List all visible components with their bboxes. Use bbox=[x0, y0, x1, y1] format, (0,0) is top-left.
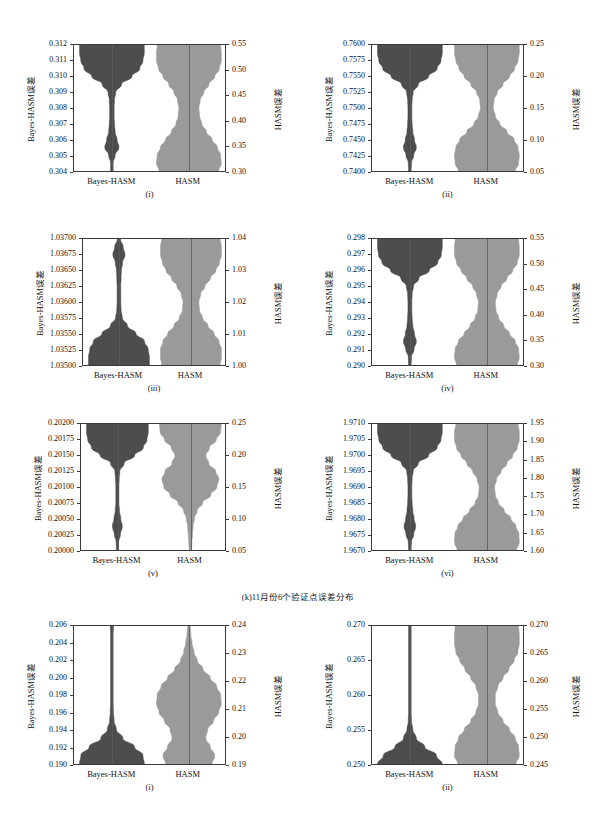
violin-whisker bbox=[83, 764, 141, 765]
tick-label: 0.20 bbox=[232, 451, 246, 459]
tick-mark bbox=[524, 340, 527, 341]
tick-label: 0.204 bbox=[49, 639, 67, 647]
tick-label: 1.9705 bbox=[343, 435, 365, 443]
violin-median-line bbox=[112, 626, 113, 764]
tick-mark bbox=[79, 366, 82, 367]
tick-mark bbox=[524, 681, 527, 682]
tick-label: 0.250 bbox=[530, 733, 548, 741]
tick-mark bbox=[226, 519, 229, 520]
tick-mark bbox=[524, 108, 527, 109]
panel-label: (v) bbox=[80, 568, 226, 578]
tick-mark bbox=[226, 551, 229, 552]
tick-mark bbox=[524, 76, 527, 77]
right-axis-title: HASM误差 bbox=[569, 80, 581, 138]
tick-label: 0.55 bbox=[530, 234, 544, 242]
violin-whisker bbox=[458, 550, 516, 551]
plot-frame bbox=[80, 423, 226, 551]
tick-label: 0.7500 bbox=[343, 104, 365, 112]
tick-label: 0.245 bbox=[530, 761, 548, 769]
violin-hasm bbox=[160, 239, 222, 365]
right-axis-ticks: 0.2450.2500.2550.2600.2650.270 bbox=[524, 625, 564, 765]
tick-label: 1.03 bbox=[232, 266, 246, 274]
category-label-bayes-hasm: Bayes-HASM bbox=[371, 769, 448, 779]
violin-median-line bbox=[410, 239, 411, 365]
tick-label: 0.40 bbox=[232, 117, 246, 125]
tick-label: 1.70 bbox=[530, 510, 544, 518]
right-axis-title: HASM误差 bbox=[569, 459, 581, 517]
tick-label: 1.03575 bbox=[50, 314, 76, 322]
tick-mark bbox=[226, 487, 229, 488]
tick-mark bbox=[70, 643, 73, 644]
tick-mark bbox=[524, 264, 527, 265]
tick-mark bbox=[368, 302, 371, 303]
tick-mark bbox=[524, 44, 527, 45]
tick-mark bbox=[368, 172, 371, 173]
tick-mark bbox=[226, 44, 229, 45]
tick-label: 0.15 bbox=[530, 104, 544, 112]
tick-label: 0.198 bbox=[49, 691, 67, 699]
right-axis-title: HASM误差 bbox=[569, 667, 581, 725]
tick-label: 0.265 bbox=[347, 656, 365, 664]
tick-label: 0.310 bbox=[49, 72, 67, 80]
tick-mark bbox=[368, 423, 371, 424]
tick-label: 0.20125 bbox=[48, 467, 74, 475]
tick-mark bbox=[70, 660, 73, 661]
category-label-bayes-hasm: Bayes-HASM bbox=[80, 555, 153, 565]
tick-label: 0.294 bbox=[347, 298, 365, 306]
tick-label: 0.7550 bbox=[343, 72, 365, 80]
tick-label: 0.7600 bbox=[343, 40, 365, 48]
tick-label: 0.35 bbox=[530, 336, 544, 344]
tick-label: 0.250 bbox=[347, 761, 365, 769]
category-label-bayes-hasm: Bayes-HASM bbox=[73, 176, 150, 186]
tick-label: 0.7475 bbox=[343, 120, 365, 128]
tick-label: 0.304 bbox=[49, 168, 67, 176]
tick-label: 0.7575 bbox=[343, 56, 365, 64]
tick-label: 1.9680 bbox=[343, 515, 365, 523]
right-axis-title: HASM误差 bbox=[569, 274, 581, 332]
tick-label: 0.306 bbox=[49, 136, 67, 144]
tick-label: 0.202 bbox=[49, 656, 67, 664]
violin-bayes-hasm bbox=[377, 45, 443, 171]
tick-mark bbox=[77, 455, 80, 456]
tick-mark bbox=[70, 625, 73, 626]
violin-hasm bbox=[454, 424, 520, 550]
tick-mark bbox=[368, 503, 371, 504]
tick-mark bbox=[368, 695, 371, 696]
right-axis-ticks: 0.050.100.150.200.25 bbox=[524, 44, 564, 172]
right-axis-title: HASM误差 bbox=[271, 667, 283, 725]
violin-whisker bbox=[458, 764, 516, 765]
category-label-bayes-hasm: Bayes-HASM bbox=[371, 176, 448, 186]
tick-label: 0.260 bbox=[347, 691, 365, 699]
tick-mark bbox=[524, 238, 527, 239]
plot-frame bbox=[73, 44, 226, 172]
right-axis-ticks: 1.601.651.701.751.801.851.901.95 bbox=[524, 423, 564, 551]
tick-label: 0.7525 bbox=[343, 88, 365, 96]
tick-mark bbox=[79, 270, 82, 271]
tick-mark bbox=[524, 496, 527, 497]
left-axis-ticks: 0.1900.1920.1940.1960.1980.2000.2020.204… bbox=[29, 625, 73, 765]
left-axis-ticks: 1.035001.035251.035501.035751.036001.036… bbox=[38, 238, 82, 366]
tick-label: 0.308 bbox=[49, 104, 67, 112]
left-axis-title: Bayes-HASM误差 bbox=[31, 453, 43, 523]
tick-mark bbox=[226, 423, 229, 424]
tick-mark bbox=[79, 334, 82, 335]
tick-mark bbox=[70, 108, 73, 109]
tick-label: 0.293 bbox=[347, 314, 365, 322]
tick-label: 0.7450 bbox=[343, 136, 365, 144]
tick-mark bbox=[226, 366, 229, 367]
violin-bayes-hasm bbox=[79, 626, 145, 764]
tick-mark bbox=[79, 254, 82, 255]
tick-mark bbox=[77, 471, 80, 472]
violin-whisker bbox=[92, 365, 146, 366]
tick-mark bbox=[368, 76, 371, 77]
violin-panel-4: 0.2900.2910.2920.2930.2940.2950.2960.297… bbox=[0, 0, 596, 829]
category-label-hasm: HASM bbox=[448, 176, 525, 186]
tick-mark bbox=[77, 551, 80, 552]
tick-label: 1.9710 bbox=[343, 419, 365, 427]
category-label-hasm: HASM bbox=[153, 555, 226, 565]
tick-mark bbox=[524, 709, 527, 710]
right-axis-title: HASM误差 bbox=[271, 80, 283, 138]
tick-mark bbox=[368, 108, 371, 109]
tick-mark bbox=[226, 709, 229, 710]
tick-mark bbox=[368, 334, 371, 335]
